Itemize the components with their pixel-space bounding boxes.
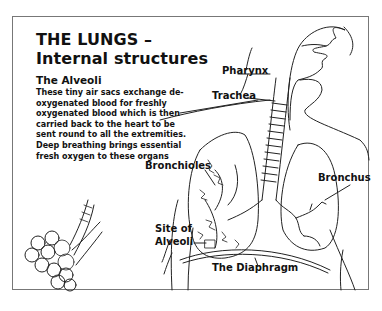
page-title: THE LUNGS – Internal structures [36, 30, 208, 68]
alveoli-heading: The Alveoli [36, 74, 102, 86]
title-line-1: THE LUNGS – [36, 30, 208, 49]
label-trachea: Trachea [212, 90, 256, 101]
alveoli-description: These tiny air sacs exchange de-oxygenat… [36, 88, 186, 162]
label-pharynx: Pharynx [222, 65, 268, 76]
head-profile-icon [288, 27, 369, 160]
alveoli-cluster-icon [25, 200, 102, 291]
upper-leader [180, 100, 258, 113]
torso-outline [188, 228, 355, 290]
label-bronchioles: Bronchioles [145, 160, 211, 171]
trachea-icon [261, 78, 290, 200]
label-diaphragm: The Diaphragm [212, 262, 298, 273]
label-site-of: Site of [155, 223, 192, 234]
right-lung-icon [276, 143, 338, 250]
title-line-2: Internal structures [36, 49, 208, 68]
label-bronchus: Bronchus [318, 172, 371, 183]
label-alveoli: Alveoli [155, 236, 193, 247]
left-lung-icon [188, 132, 262, 258]
